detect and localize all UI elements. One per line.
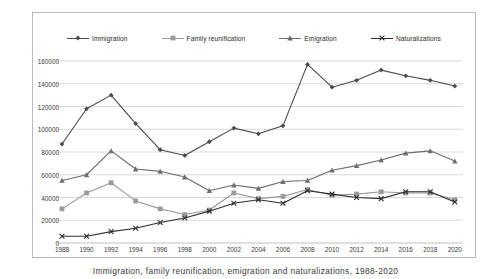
diamond-marker-icon xyxy=(67,33,89,43)
y-tick-label: 20000 xyxy=(30,217,62,224)
cross-marker-icon xyxy=(371,33,393,43)
legend-item-emigration[interactable]: Emigration xyxy=(279,33,337,43)
triangle-marker-icon xyxy=(279,33,301,43)
figure-caption: Immigration, family reunification, emigr… xyxy=(0,266,491,276)
y-tick-label: 100000 xyxy=(30,126,62,133)
chart-legend: ImmigrationFamily reunificationEmigratio… xyxy=(32,31,476,45)
legend-label: Immigration xyxy=(92,35,128,42)
legend-label: Emigration xyxy=(304,35,337,42)
data-point-triangle-marker xyxy=(288,35,293,40)
data-point-cross-marker xyxy=(379,36,384,41)
legend-item-naturalizations[interactable]: Naturalizations xyxy=(371,33,441,43)
legend-item-immigration[interactable]: Immigration xyxy=(67,33,128,43)
y-tick-label: 40000 xyxy=(30,194,62,201)
x-axis: 1988199019921994199619982000200220042006… xyxy=(0,246,491,266)
legend-item-family-reunification[interactable]: Family reunification xyxy=(162,33,246,43)
x-tick-label: 2020 xyxy=(440,246,470,253)
chart-plot-frame xyxy=(32,12,476,258)
legend-label: Family reunification xyxy=(187,35,246,42)
y-tick-label: 140000 xyxy=(30,80,62,87)
y-tick-label: 60000 xyxy=(30,171,62,178)
y-tick-label: 160000 xyxy=(30,58,62,65)
legend-label: Naturalizations xyxy=(396,35,441,42)
square-marker-icon xyxy=(162,33,184,43)
y-tick-label: 80000 xyxy=(30,149,62,156)
data-point-square-marker xyxy=(170,36,175,41)
data-point-diamond-marker xyxy=(76,36,81,41)
y-tick-label: 120000 xyxy=(30,103,62,110)
y-axis: 0200004000060000800001000001200001400001… xyxy=(0,0,62,279)
chart-figure: ImmigrationFamily reunificationEmigratio… xyxy=(0,0,491,279)
